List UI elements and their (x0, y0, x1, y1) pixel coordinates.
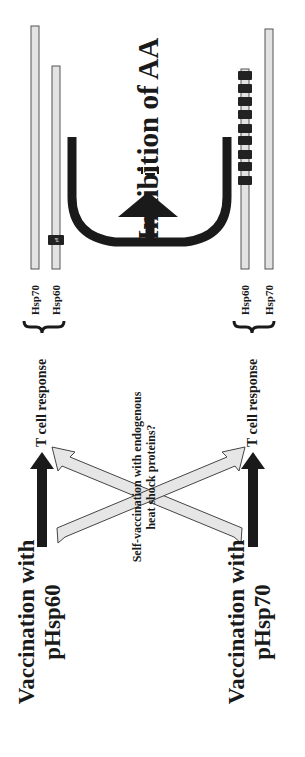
vaccination-pHsp60-line1: Vaccination with (14, 537, 40, 707)
arrow-vacc70-to-tcell (241, 452, 265, 547)
self-vaccination-line1: Self-vaccination with endogenous (130, 372, 144, 582)
hsp60-label-top: Hsp60 (50, 285, 62, 315)
svg-text:p8: p8 (54, 237, 59, 242)
vaccination-pHsp70-label: Vaccination with pHsp70 (224, 537, 276, 707)
vaccination-pHsp70-line1: Vaccination with (224, 537, 250, 707)
diagram-canvas: p8 Vaccination with pHsp60 Vaccination w… (0, 0, 305, 757)
t-cell-response-bottom: T cell response (245, 359, 261, 447)
brace-bottom (234, 321, 274, 333)
hsp70-label-top: Hsp70 (29, 285, 41, 315)
vaccination-pHsp70-line2: pHsp70 (250, 537, 276, 707)
inhibition-of-aa-label: Inhibition of AA (132, 38, 165, 241)
vaccination-pHsp60-label: Vaccination with pHsp60 (14, 537, 66, 707)
t-cell-response-top: T cell response (34, 359, 50, 447)
vaccination-pHsp60-line2: pHsp60 (40, 537, 66, 707)
hsp60-label-bottom: Hsp60 (239, 285, 251, 315)
hsp70-label-bottom: Hsp70 (263, 285, 275, 315)
self-vaccination-question: Self-vaccination with endogenous heat sh… (130, 372, 158, 582)
brace-top (24, 321, 64, 333)
bar-bottom-hsp70 (265, 29, 273, 269)
epitope-top-hsp60: p8 (48, 235, 64, 245)
arrow-vacc60-to-tcell (30, 452, 54, 547)
self-vaccination-line2: heat shock proteins? (144, 372, 158, 582)
bar-top-hsp70 (31, 26, 39, 269)
epitopes-bottom-hsp60 (238, 71, 252, 185)
